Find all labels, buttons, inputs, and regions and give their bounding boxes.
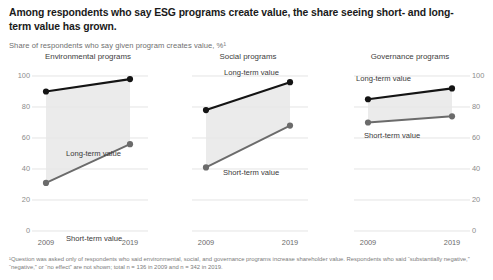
headline: Among respondents who say ESG programs c…: [9, 6, 471, 34]
data-point: [365, 119, 371, 125]
chart-panel-1: Social programs20092019Long-term valueSh…: [168, 52, 328, 248]
series-label: Long-term value: [356, 74, 411, 83]
series-label: Long-term value: [66, 149, 121, 158]
data-point: [287, 123, 293, 129]
subhead: Share of respondents who say given progr…: [9, 41, 479, 50]
data-point: [127, 76, 133, 82]
data-point: [203, 164, 209, 170]
x-axis-tick-label: 2019: [270, 238, 310, 247]
data-point: [449, 113, 455, 119]
y-axis-tick-label: 100: [8, 71, 30, 80]
y-axis-tick-label: 60: [472, 133, 493, 142]
data-point: [43, 180, 49, 186]
plot-area: [168, 52, 328, 248]
value-gap-band: [206, 82, 290, 167]
x-axis-tick-label: 2009: [26, 238, 66, 247]
footnote: ¹Question was asked only of respondents …: [9, 255, 485, 272]
data-point: [287, 79, 293, 85]
y-axis-tick-label: 0: [472, 226, 493, 235]
data-point: [43, 88, 49, 94]
x-axis-tick-label: 2019: [432, 238, 472, 247]
series-label: Short-term value: [223, 168, 279, 177]
x-axis-tick-label: 2009: [186, 238, 226, 247]
y-axis-tick-label: 20: [8, 195, 30, 204]
series-label: Short-term value: [66, 234, 122, 243]
series-label: Long-term value: [224, 68, 279, 77]
chart-figure: Among respondents who say ESG programs c…: [0, 0, 493, 280]
y-axis-tick-label: 80: [8, 102, 30, 111]
y-axis-tick-label: 100: [472, 71, 493, 80]
y-axis-tick-label: 40: [472, 164, 493, 173]
chart-panels: Environmental programs020406080100200920…: [0, 52, 493, 248]
x-axis-tick-label: 2009: [348, 238, 388, 247]
value-gap-band: [46, 79, 130, 183]
y-axis-tick-label: 20: [472, 195, 493, 204]
data-point: [203, 107, 209, 113]
y-axis-tick-label: 60: [8, 133, 30, 142]
y-axis-tick-label: 0: [8, 226, 30, 235]
series-label: Short-term value: [364, 131, 420, 140]
data-point: [365, 96, 371, 102]
data-point: [449, 85, 455, 91]
y-axis-tick-label: 40: [8, 164, 30, 173]
data-point: [127, 141, 133, 147]
chart-panel-0: Environmental programs020406080100200920…: [8, 52, 168, 248]
chart-panel-2: Governance programs02040608010020092019L…: [330, 52, 490, 248]
y-axis-tick-label: 80: [472, 102, 493, 111]
